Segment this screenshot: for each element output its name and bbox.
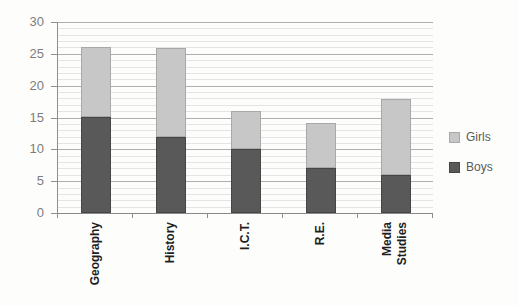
- major-gridline: [58, 86, 433, 87]
- bar-boys-r-e: [306, 168, 336, 213]
- minor-gridline: [58, 47, 433, 48]
- y-axis-label-30: 30: [8, 14, 44, 30]
- legend-swatch-boys-icon: [449, 162, 460, 173]
- minor-gridline: [58, 60, 433, 61]
- y-axis-tick: [51, 149, 57, 150]
- y-axis-tick: [51, 54, 57, 55]
- minor-gridline: [58, 92, 433, 93]
- major-gridline: [58, 54, 433, 55]
- legend-item-boys: Boys: [449, 161, 493, 174]
- x-axis-tick: [282, 214, 283, 218]
- x-axis-tick: [132, 214, 133, 218]
- x-axis-label-r-e: R.E.: [303, 222, 337, 302]
- minor-gridline: [58, 73, 433, 74]
- bar-boys-history: [156, 137, 186, 213]
- minor-gridline: [58, 79, 433, 80]
- legend-label-boys: Boys: [466, 161, 493, 174]
- x-axis-label-history: History: [153, 222, 187, 302]
- minor-gridline: [58, 105, 433, 106]
- bar-girls-i-c-t: [231, 111, 261, 149]
- legend: GirlsBoys: [449, 131, 493, 191]
- y-axis-tick: [51, 86, 57, 87]
- x-axis-label-geography: Geography: [78, 222, 112, 302]
- plot-area: [57, 22, 433, 214]
- bar-girls-r-e: [306, 123, 336, 168]
- x-axis-tick: [207, 214, 208, 218]
- legend-swatch-girls-icon: [449, 132, 460, 143]
- x-axis-tick: [57, 214, 58, 218]
- minor-gridline: [58, 28, 433, 29]
- minor-gridline: [58, 98, 433, 99]
- bar-girls-media-studies: [381, 99, 411, 175]
- y-axis-label-10: 10: [8, 141, 44, 157]
- legend-item-girls: Girls: [449, 131, 493, 144]
- legend-label-girls: Girls: [466, 131, 491, 144]
- x-axis-label-i-c-t: I.C.T.: [228, 222, 262, 302]
- y-axis-label-5: 5: [8, 173, 44, 189]
- bar-boys-i-c-t: [231, 149, 261, 213]
- y-axis-tick: [51, 181, 57, 182]
- x-axis-tick: [357, 214, 358, 218]
- bar-boys-geography: [81, 117, 111, 213]
- bar-girls-history: [156, 48, 186, 137]
- minor-gridline: [58, 41, 433, 42]
- y-axis-tick: [51, 22, 57, 23]
- x-axis-label-media-studies: Media Studies: [378, 222, 412, 302]
- x-axis-tick: [432, 214, 433, 218]
- bar-boys-media-studies: [381, 175, 411, 213]
- y-axis-label-25: 25: [8, 46, 44, 62]
- y-axis-label-20: 20: [8, 78, 44, 94]
- stacked-bar-chart-figure: 051015202530 GeographyHistoryI.C.T.R.E.M…: [0, 0, 518, 306]
- major-gridline: [58, 22, 433, 23]
- minor-gridline: [58, 67, 433, 68]
- y-axis-tick: [51, 118, 57, 119]
- y-axis-label-0: 0: [8, 205, 44, 221]
- minor-gridline: [58, 35, 433, 36]
- bar-girls-geography: [81, 47, 111, 117]
- y-axis-label-15: 15: [8, 110, 44, 126]
